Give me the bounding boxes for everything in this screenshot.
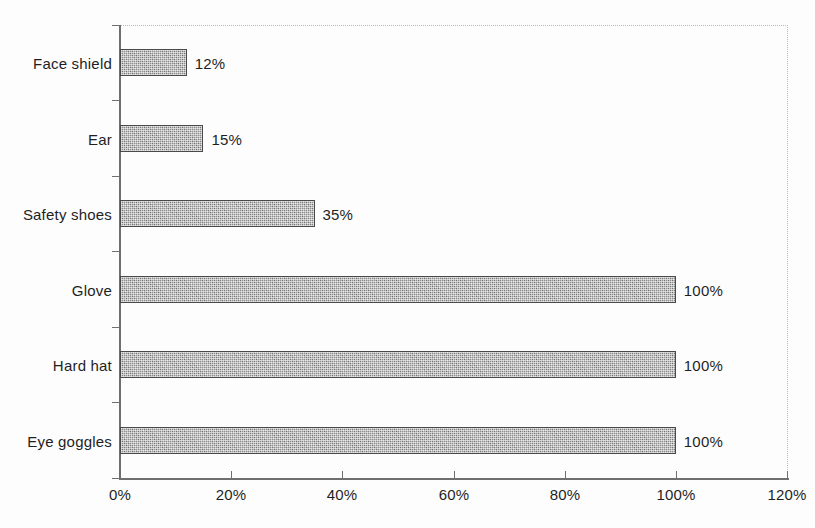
- bar-face-shield: [120, 49, 187, 76]
- bar-value-hard-hat: 100%: [684, 357, 723, 374]
- x-axis-tick-label-20: 20%: [191, 486, 271, 503]
- x-axis-tick-label-120: 120%: [747, 486, 815, 503]
- x-axis-tick-label-80: 80%: [525, 486, 605, 503]
- x-axis-tick-label-60: 60%: [414, 486, 494, 503]
- plot-area-right-border: [787, 25, 788, 478]
- bar-value-glove: 100%: [684, 282, 723, 299]
- bar-ear: [120, 125, 203, 152]
- bar-value-face-shield: 12%: [195, 55, 226, 72]
- x-axis-tick-label-100: 100%: [636, 486, 716, 503]
- x-axis-tick-80: [565, 471, 566, 479]
- category-label-eye-goggles: Eye goggles: [0, 433, 112, 450]
- y-axis-tick: [112, 478, 120, 479]
- x-axis-tick-20: [231, 471, 232, 479]
- x-axis-tick-label-0: 0%: [80, 486, 160, 503]
- y-axis-tick: [112, 251, 120, 252]
- x-axis-tick-0: [120, 471, 121, 479]
- bar-glove: [120, 276, 676, 303]
- y-axis-tick: [112, 100, 120, 101]
- bar-hard-hat: [120, 351, 676, 378]
- x-axis-tick-40: [342, 471, 343, 479]
- x-axis-tick-120: [787, 471, 788, 479]
- category-label-hard-hat: Hard hat: [0, 357, 112, 374]
- y-axis-line: [119, 25, 121, 479]
- y-axis-tick: [112, 25, 120, 26]
- y-axis-tick: [112, 402, 120, 403]
- x-axis-tick-100: [676, 471, 677, 479]
- category-label-safety-shoes: Safety shoes: [0, 206, 112, 223]
- bar-chart: 0% 20% 40% 60% 80% 100% 120% Face shield…: [0, 0, 815, 528]
- x-axis-tick-60: [454, 471, 455, 479]
- plot-area-top-border: [120, 25, 788, 26]
- y-axis-tick: [112, 327, 120, 328]
- bar-value-eye-goggles: 100%: [684, 433, 723, 450]
- bar-eye-goggles: [120, 427, 676, 454]
- bar-value-ear: 15%: [211, 131, 242, 148]
- x-axis-tick-label-40: 40%: [302, 486, 382, 503]
- y-axis-tick: [112, 176, 120, 177]
- bar-safety-shoes: [120, 200, 315, 227]
- category-label-ear: Ear: [0, 131, 112, 148]
- category-label-face-shield: Face shield: [0, 55, 112, 72]
- category-label-glove: Glove: [0, 282, 112, 299]
- bar-value-safety-shoes: 35%: [323, 206, 354, 223]
